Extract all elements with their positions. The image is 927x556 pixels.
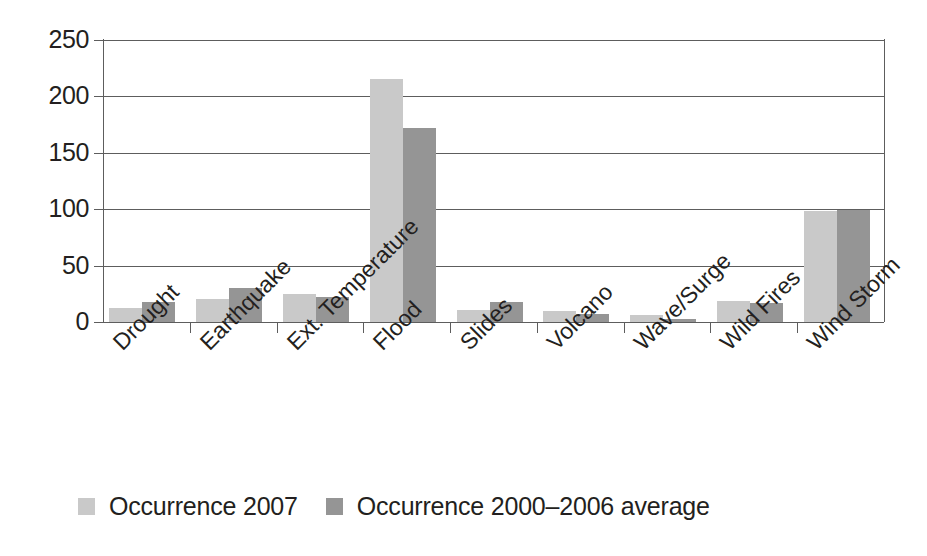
- legend-swatch-icon: [78, 498, 95, 515]
- chart-legend: Occurrence 2007Occurrence 2000–2006 aver…: [78, 494, 710, 519]
- y-tick-label: 200: [48, 83, 89, 108]
- x-axis-category-labels: DroughtEarthquakeExt. TemperatureFloodSl…: [103, 322, 927, 472]
- legend-swatch-icon: [326, 498, 343, 515]
- y-tick-mark: [94, 153, 103, 154]
- plot-area: [103, 40, 884, 322]
- y-tick-mark: [94, 40, 103, 41]
- legend-item: Occurrence 2000–2006 average: [326, 494, 710, 519]
- y-tick-label: 150: [48, 140, 89, 165]
- y-tick-mark: [94, 96, 103, 97]
- y-tick-label: 100: [48, 196, 89, 221]
- bar-chart: 050100150200250 DroughtEarthquakeExt. Te…: [0, 0, 927, 556]
- y-tick-mark: [94, 322, 103, 323]
- y-tick-mark: [94, 266, 103, 267]
- legend-item: Occurrence 2007: [78, 494, 298, 519]
- legend-label: Occurrence 2007: [109, 494, 298, 519]
- y-tick-mark: [94, 209, 103, 210]
- y-tick-label: 250: [48, 27, 89, 52]
- y-tick-label: 50: [62, 253, 89, 278]
- bar: [370, 79, 403, 322]
- legend-label: Occurrence 2000–2006 average: [357, 494, 710, 519]
- bar-series-container: [103, 40, 884, 322]
- y-tick-label: 0: [75, 309, 89, 334]
